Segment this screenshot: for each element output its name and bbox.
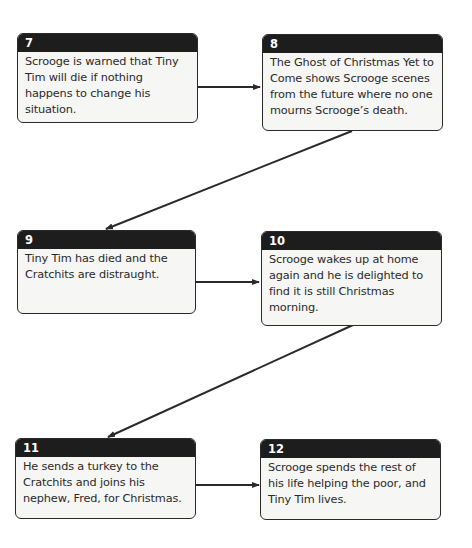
step-box-11: 11 He sends a turkey to the Cratchits an… xyxy=(15,438,196,519)
arrow-10-to-11 xyxy=(108,325,353,437)
step-text: Tiny Tim has died and the Cratchits are … xyxy=(18,249,195,283)
step-number: 12 xyxy=(261,440,440,458)
step-number: 9 xyxy=(18,231,195,249)
step-number: 11 xyxy=(16,439,195,457)
step-text: He sends a turkey to the Cratchits and j… xyxy=(16,457,195,507)
step-text: Scrooge spends the rest of his life help… xyxy=(261,458,440,508)
step-box-7: 7 Scrooge is warned that Tiny Tim will d… xyxy=(17,33,198,123)
step-box-9: 9 Tiny Tim has died and the Cratchits ar… xyxy=(17,230,196,314)
step-box-12: 12 Scrooge spends the rest of his life h… xyxy=(260,439,441,520)
step-box-8: 8 The Ghost of Christmas Yet to Come sho… xyxy=(262,34,443,131)
step-number: 10 xyxy=(262,232,441,250)
arrow-8-to-9 xyxy=(106,131,352,229)
step-box-10: 10 Scrooge wakes up at home again and he… xyxy=(261,231,442,326)
step-number: 8 xyxy=(263,35,442,53)
step-text: Scrooge wakes up at home again and he is… xyxy=(262,250,441,316)
step-number: 7 xyxy=(18,34,197,52)
step-text: The Ghost of Christmas Yet to Come shows… xyxy=(263,53,442,119)
step-text: Scrooge is warned that Tiny Tim will die… xyxy=(18,52,197,118)
